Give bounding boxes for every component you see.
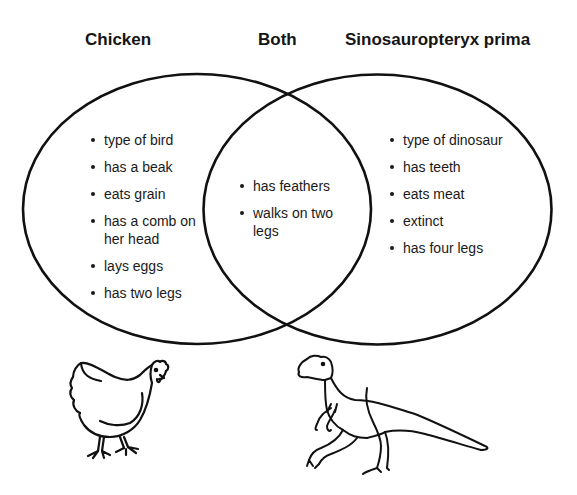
list-item: has a comb on her head [91, 212, 206, 248]
list-item: has a beak [91, 158, 206, 176]
list-item: type of dinosaur [390, 131, 530, 149]
list-item: walks on two legs [240, 204, 348, 240]
venn-diagram-canvas: Chicken Both Sinosauropteryx prima type … [0, 0, 577, 495]
list-item: eats meat [390, 185, 530, 203]
list-item: has two legs [91, 284, 206, 302]
chicken-traits-list: type of bird has a beak eats grain has a… [91, 131, 206, 311]
dinosaur-heading: Sinosauropteryx prima [345, 30, 530, 50]
list-item: has teeth [390, 158, 530, 176]
list-item: extinct [390, 212, 530, 230]
chicken-heading: Chicken [85, 30, 151, 50]
shared-traits-list: has feathers walks on two legs [240, 177, 348, 249]
list-item: has feathers [240, 177, 348, 195]
list-item: has four legs [390, 239, 530, 257]
both-heading: Both [258, 30, 297, 50]
list-item: eats grain [91, 185, 206, 203]
list-item: lays eggs [91, 257, 206, 275]
dinosaur-traits-list: type of dinosaur has teeth eats meat ext… [390, 131, 530, 266]
chicken-icon [60, 355, 180, 465]
dinosaur-icon [285, 350, 505, 480]
list-item: type of bird [91, 131, 206, 149]
